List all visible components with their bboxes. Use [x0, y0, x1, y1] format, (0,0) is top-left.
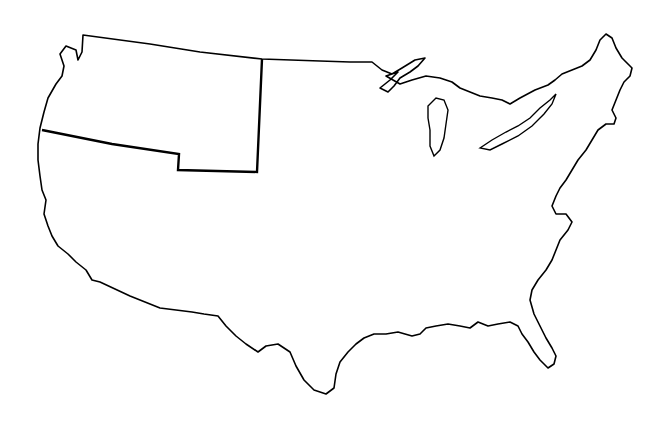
us-outline	[38, 34, 632, 394]
lake-michigan	[428, 98, 448, 156]
us-outline-map	[0, 0, 668, 427]
oregon-country-border	[42, 59, 262, 172]
lake-erie-ontario	[480, 94, 556, 150]
map-svg	[0, 0, 668, 427]
